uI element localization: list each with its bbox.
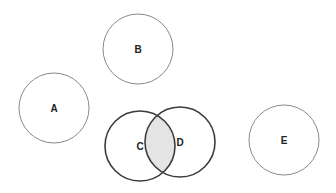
label-b: B	[134, 44, 141, 55]
label-e: E	[281, 135, 288, 146]
label-a: A	[50, 103, 57, 114]
set-a: A	[19, 73, 89, 143]
label-c: C	[136, 141, 143, 152]
set-e: E	[249, 105, 319, 175]
venn-diagram: A B C D E	[0, 0, 336, 193]
label-d: D	[176, 137, 183, 148]
set-b: B	[103, 14, 173, 84]
